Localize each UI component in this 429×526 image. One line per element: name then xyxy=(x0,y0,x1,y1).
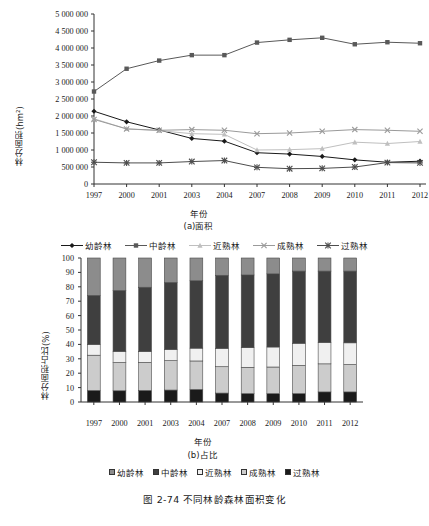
xtick-label: 2000 xyxy=(118,191,134,200)
ytick-label: 40 xyxy=(66,340,74,349)
panel-b-bar-chart: 林分面积占比(%) 0102030405060708090100 1997200… xyxy=(0,252,429,482)
bar-segment xyxy=(164,282,177,349)
ytick-label: 5 000 000 xyxy=(55,10,88,19)
legend-label: 中龄林 xyxy=(149,239,176,251)
bar-segment xyxy=(139,362,152,390)
bar-segment xyxy=(113,291,126,352)
bar-segment xyxy=(293,365,306,393)
bar-segment xyxy=(113,258,126,291)
bar-segment xyxy=(113,391,126,402)
xtick-label: 2009 xyxy=(314,191,330,200)
bar-segment xyxy=(344,365,357,392)
bar-segment xyxy=(344,392,357,402)
bar-segment xyxy=(87,295,100,344)
legend-marker-icon xyxy=(61,241,83,250)
bar-segment xyxy=(216,367,229,393)
legend-swatch-icon xyxy=(285,469,291,475)
ytick-label: 3 000 000 xyxy=(55,78,88,87)
bar-segment xyxy=(216,348,229,366)
bar-segment xyxy=(267,258,280,274)
panel-a-ylabel: 林分面积(hm²) xyxy=(14,46,26,166)
legend-marker-icon xyxy=(125,241,147,250)
xtick-label: 1997 xyxy=(86,191,102,200)
legend-item-成熟林[interactable]: 成熟林 xyxy=(241,466,276,478)
xtick-label: 2004 xyxy=(216,191,232,200)
panel-a-ytick-labels: 0500 0001 000 0001 500 0002 000 0002 500… xyxy=(26,8,88,208)
legend-item-中龄林[interactable]: 中龄林 xyxy=(153,466,188,478)
bar-segment xyxy=(344,343,357,365)
xtick-label: 2001 xyxy=(137,419,153,428)
bar-segment xyxy=(241,348,254,368)
xtick-label: 2003 xyxy=(163,419,179,428)
bar-segment xyxy=(216,258,229,275)
legend-swatch-icon xyxy=(197,469,203,475)
panel-a-subcaption: (a)面积 xyxy=(0,219,413,231)
bar-segment xyxy=(190,258,203,281)
legend-item-幼龄林[interactable]: 幼龄林 xyxy=(61,239,112,251)
panel-b-ytick-labels: 0102030405060708090100 xyxy=(44,252,74,417)
xtick-label: 1997 xyxy=(86,419,102,428)
ytick-label: 80 xyxy=(66,282,74,291)
bar-segment xyxy=(318,342,331,363)
bar-segment xyxy=(190,361,203,390)
ytick-label: 90 xyxy=(66,268,74,277)
legend-marker-icon xyxy=(189,241,211,250)
bar-segment xyxy=(139,287,152,351)
bar-segment xyxy=(139,351,152,362)
bar-segment xyxy=(164,258,177,282)
panel-a-plot-area xyxy=(90,8,429,208)
legend-item-近熟林[interactable]: 近熟林 xyxy=(197,466,232,478)
xtick-label: 2003 xyxy=(184,191,200,200)
xtick-label: 2009 xyxy=(265,419,281,428)
xtick-label: 2012 xyxy=(342,419,358,428)
legend-swatch-icon xyxy=(153,469,159,475)
xtick-label: 2011 xyxy=(316,419,332,428)
bar-segment xyxy=(190,389,203,402)
bar-segment xyxy=(344,271,357,343)
bar-segment xyxy=(293,271,306,343)
bar-segment xyxy=(139,258,152,287)
ytick-label: 3 500 000 xyxy=(55,61,88,70)
legend-item-过熟林[interactable]: 过熟林 xyxy=(285,466,320,478)
legend-item-近熟林[interactable]: 近熟林 xyxy=(189,239,240,251)
xtick-label: 2001 xyxy=(151,191,167,200)
legend-item-幼龄林[interactable]: 幼龄林 xyxy=(109,466,144,478)
ytick-label: 4 000 000 xyxy=(55,44,88,53)
legend-label: 近熟林 xyxy=(213,239,240,251)
xtick-label: 2008 xyxy=(281,191,297,200)
ytick-label: 4 500 000 xyxy=(55,27,88,36)
xtick-label: 2012 xyxy=(412,191,428,200)
bar-segment xyxy=(241,258,254,275)
bar-segment xyxy=(164,361,177,390)
bar-segment xyxy=(318,258,331,271)
panel-a-xlabel: 年份 xyxy=(0,207,413,219)
legend-label: 幼龄林 xyxy=(85,239,112,251)
panel-b-xlabel: 年份 xyxy=(0,435,417,447)
xtick-label: 2011 xyxy=(379,191,395,200)
bar-segment xyxy=(113,363,126,391)
legend-item-过熟林[interactable]: 过熟林 xyxy=(317,239,368,251)
xtick-label: 2000 xyxy=(111,419,127,428)
bar-segment xyxy=(216,275,229,348)
legend-item-成熟林[interactable]: 成熟林 xyxy=(253,239,304,251)
xtick-label: 2007 xyxy=(214,419,230,428)
bar-segment xyxy=(164,390,177,402)
panel-a-xtick-labels: 1997200020012003200420072008200920102011… xyxy=(90,191,429,207)
ytick-label: 60 xyxy=(66,311,74,320)
panel-b-plot-area xyxy=(77,252,367,417)
ytick-label: 2 500 000 xyxy=(55,95,88,104)
bar-segment xyxy=(344,258,357,271)
bar-segment xyxy=(164,349,177,360)
xtick-label: 2004 xyxy=(188,419,204,428)
ytick-label: 70 xyxy=(66,297,74,306)
bar-segment xyxy=(293,343,306,365)
legend-item-中龄林[interactable]: 中龄林 xyxy=(125,239,176,251)
panel-a-line-chart: 林分面积(hm²) 0500 0001 000 0001 500 0002 00… xyxy=(0,8,429,240)
legend-marker-icon xyxy=(317,241,339,250)
legend-swatch-icon xyxy=(109,469,115,475)
legend-label: 成熟林 xyxy=(277,239,304,251)
bar-segment xyxy=(87,355,100,390)
xtick-label: 2010 xyxy=(347,191,363,200)
bar-segment xyxy=(241,367,254,393)
panel-b-xtick-labels: 1997200020012003200420072008200920102011… xyxy=(77,419,367,433)
